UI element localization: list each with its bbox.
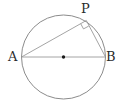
point-label-p: P: [81, 2, 90, 15]
point-label-a: A: [8, 50, 17, 63]
geometry-canvas: [0, 0, 120, 104]
center-point-dot: [62, 55, 65, 58]
right-angle-marker-icon: [81, 24, 89, 29]
point-label-b: B: [106, 50, 116, 63]
segment-chord-ap: [22, 21, 87, 58]
geometry-figure: A B P: [0, 0, 120, 104]
segment-chord-pb: [86, 21, 105, 58]
